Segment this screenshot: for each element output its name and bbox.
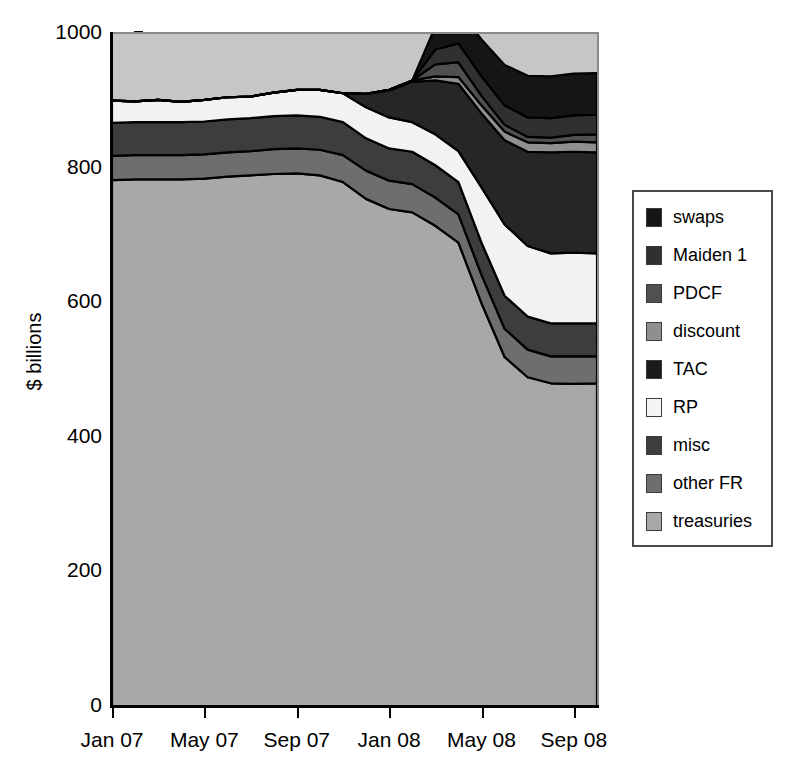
x-axis-tick-label: May 07 <box>170 728 239 752</box>
legend-swatch-icon <box>646 208 662 227</box>
y-axis-tick-label: 1000 <box>32 21 102 42</box>
x-axis-tick-label: Jan 08 <box>358 728 421 752</box>
chart-legend: swapsMaiden 1PDCFdiscountTACRPmiscother … <box>632 190 773 547</box>
legend-item-treasuries[interactable]: treasuries <box>646 508 752 534</box>
x-axis-tick-label: May 08 <box>447 728 516 752</box>
legend-item-label: RP <box>673 398 698 416</box>
x-axis-tick-mark <box>482 708 484 718</box>
legend-item-label: treasuries <box>673 512 752 530</box>
legend-swatch-icon <box>646 322 662 341</box>
x-axis-tick-mark <box>389 708 391 718</box>
x-axis-tick-label: Sep 07 <box>263 728 330 752</box>
chart-figure: $ billions 10008006004002000 Jan 07May 0… <box>0 0 786 779</box>
x-axis-tick-label: Sep 08 <box>541 728 608 752</box>
legend-item-maiden-1[interactable]: Maiden 1 <box>646 242 747 268</box>
legend-item-label: PDCF <box>673 284 722 302</box>
legend-swatch-icon <box>646 512 662 531</box>
plot-area <box>112 32 599 707</box>
y-axis-tick-label: 0 <box>32 694 102 715</box>
legend-swatch-icon <box>646 398 662 417</box>
x-axis-tick-mark <box>112 708 114 718</box>
legend-swatch-icon <box>646 474 662 493</box>
legend-item-rp[interactable]: RP <box>646 394 698 420</box>
legend-item-misc[interactable]: misc <box>646 432 710 458</box>
x-axis-tick-label: Jan 07 <box>80 728 143 752</box>
stacked-area-series <box>112 34 597 707</box>
legend-swatch-icon <box>646 360 662 379</box>
legend-item-label: Maiden 1 <box>673 246 747 264</box>
x-axis-tick-mark <box>574 708 576 718</box>
legend-item-tac[interactable]: TAC <box>646 356 708 382</box>
legend-swatch-icon <box>646 246 662 265</box>
legend-item-discount[interactable]: discount <box>646 318 740 344</box>
y-axis-ticks: 10008006004002000 <box>30 0 102 779</box>
x-axis-line <box>112 705 599 708</box>
y-axis-tick-label: 200 <box>32 559 102 580</box>
legend-item-pdcf[interactable]: PDCF <box>646 280 722 306</box>
y-axis-tick-label: 400 <box>32 425 102 446</box>
y-axis-tick-label: 600 <box>32 290 102 311</box>
legend-item-label: discount <box>673 322 740 340</box>
y-axis-tick-label: 800 <box>32 156 102 177</box>
x-axis-tick-mark <box>204 708 206 718</box>
y-axis-line <box>110 32 113 708</box>
x-axis-tick-mark <box>297 708 299 718</box>
legend-item-other-fr[interactable]: other FR <box>646 470 743 496</box>
legend-item-label: TAC <box>673 360 708 378</box>
legend-swatch-icon <box>646 284 662 303</box>
legend-item-label: misc <box>673 436 710 454</box>
legend-swatch-icon <box>646 436 662 455</box>
legend-item-label: other FR <box>673 474 743 492</box>
legend-item-label: swaps <box>673 208 724 226</box>
legend-item-swaps[interactable]: swaps <box>646 204 724 230</box>
